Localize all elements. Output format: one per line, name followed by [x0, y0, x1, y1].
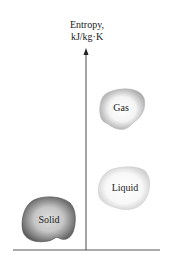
- phase-label-solid: Solid: [38, 214, 59, 225]
- entropy-phase-diagram: Gas Liquid Solid: [0, 0, 176, 265]
- vertical-axis: [84, 48, 89, 250]
- arrow-up-icon: [84, 48, 89, 55]
- phase-label-liquid: Liquid: [112, 182, 139, 193]
- phase-blob-liquid: Liquid: [98, 167, 149, 210]
- phase-blob-solid: Solid: [22, 197, 75, 242]
- phase-label-gas: Gas: [113, 102, 129, 113]
- phase-blob-gas: Gas: [100, 89, 145, 130]
